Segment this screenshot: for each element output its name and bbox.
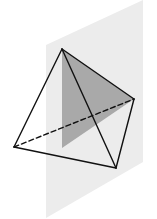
tetrahedron-diagram <box>0 0 157 219</box>
